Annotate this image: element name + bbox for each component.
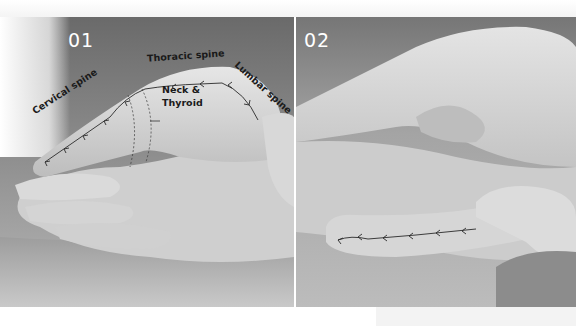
label-neck-line1: Neck & (162, 83, 203, 96)
label-neck-thyroid: Neck & Thyroid (162, 83, 203, 109)
bottom-right-block (376, 307, 576, 326)
label-neck-line2: Thyroid (162, 96, 203, 109)
photo-panel-02: 02 (296, 17, 576, 307)
hand-photo-02 (296, 17, 576, 307)
top-margin (0, 0, 576, 17)
bottom-margin (0, 307, 576, 326)
panel-number-01: 01 (68, 29, 94, 51)
photo-panel-01: 01 Cervical spine Thoracic spine Lumbar … (0, 17, 294, 307)
panel-number-02: 02 (304, 29, 330, 51)
